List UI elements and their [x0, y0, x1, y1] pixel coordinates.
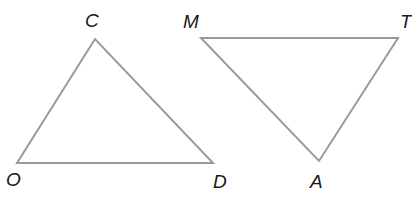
triangle-mta: [201, 38, 398, 161]
vertex-label-o: O: [6, 170, 21, 189]
vertex-label-c: C: [85, 11, 99, 30]
vertex-label-a: A: [310, 172, 323, 191]
vertex-label-m: M: [183, 12, 199, 31]
vertex-label-d: D: [213, 172, 227, 191]
vertex-label-t: T: [400, 12, 412, 31]
triangle-cod: [17, 39, 213, 163]
